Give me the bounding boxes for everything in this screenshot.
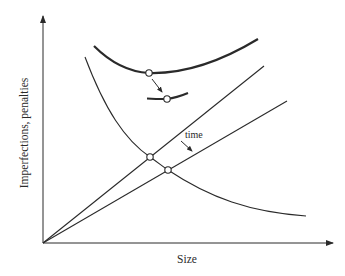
time-label: time [185,129,203,140]
intersection-initial-marker [147,154,153,160]
intersection-later-marker [165,167,171,173]
time-arrow [181,141,192,151]
optimum-shift-arrow [152,79,162,92]
optimum-initial-marker [146,70,152,76]
tradeoff-diagram: time Size Imperfections, penalties [0,0,345,276]
x-axis-label: Size [177,253,197,265]
total-cost-curve [94,39,258,73]
y-axis-label: Imperfections, penalties [18,77,31,188]
optimum-shifted-marker [164,96,170,102]
penalty-line-initial [43,66,264,243]
